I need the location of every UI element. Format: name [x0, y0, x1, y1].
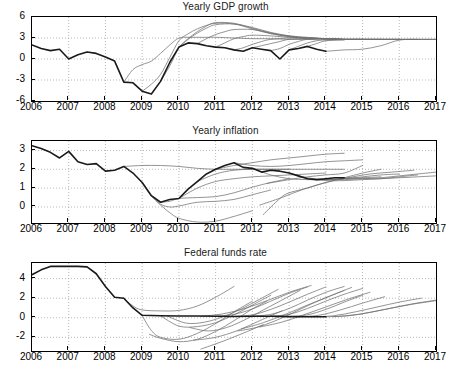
- series-forecast: [234, 160, 363, 167]
- x-axis-label: 2017: [418, 352, 451, 362]
- series-forecast: [311, 298, 421, 317]
- y-tickmark: [31, 16, 35, 17]
- x-tickmark: [288, 96, 289, 100]
- x-axis-label: 2014: [308, 102, 342, 112]
- y-tickmark: [31, 58, 35, 59]
- y-axis-label: 3: [0, 144, 25, 154]
- x-tickmark: [361, 346, 362, 350]
- x-tickmark: [67, 218, 68, 222]
- series-forecast: [216, 153, 345, 169]
- x-axis-label: 2010: [161, 352, 195, 362]
- y-axis-label: -3: [0, 74, 25, 84]
- x-axis-label: 2007: [51, 224, 85, 234]
- x-axis-label: 2011: [198, 102, 232, 112]
- x-axis-label: 2008: [87, 352, 121, 362]
- x-axis-label: 2007: [51, 102, 85, 112]
- y-axis-label: 3: [0, 32, 25, 42]
- y-axis-label: 0: [0, 312, 25, 322]
- x-tickmark: [214, 96, 215, 100]
- series-forecast: [296, 297, 384, 317]
- x-axis-label: 2014: [308, 352, 342, 362]
- x-tickmark: [251, 218, 252, 222]
- x-tickmark: [67, 96, 68, 100]
- series-history: [32, 146, 344, 203]
- x-axis-label: 2006: [14, 102, 48, 112]
- series-history: [32, 266, 326, 316]
- x-tickmark: [141, 218, 142, 222]
- chart-canvas-2: [32, 263, 436, 351]
- x-tickmark: [288, 346, 289, 350]
- y-tickmark: [31, 149, 35, 150]
- x-axis-label: 2011: [198, 224, 232, 234]
- y-axis-label: 4: [0, 273, 25, 283]
- series-forecast: [241, 287, 351, 329]
- y-axis-label: 6: [0, 11, 25, 21]
- series-forecast: [124, 37, 344, 82]
- x-axis-label: 2013: [271, 102, 305, 112]
- plot-area-inflation: [31, 140, 437, 224]
- y-axis-label: -2: [0, 331, 25, 341]
- y-tickmark: [31, 37, 35, 38]
- series-forecast: [307, 39, 436, 46]
- panel-gdp-growth: Yearly GDP growth -6-3036200620072008200…: [0, 0, 451, 120]
- x-tickmark: [214, 346, 215, 350]
- x-axis-label: 2016: [381, 102, 415, 112]
- x-axis-label: 2010: [161, 224, 195, 234]
- x-axis-label: 2012: [234, 102, 268, 112]
- y-axis-label: 2: [0, 292, 25, 302]
- x-axis-label: 2013: [271, 224, 305, 234]
- plot-area-gdp: [31, 16, 437, 102]
- x-tickmark: [324, 96, 325, 100]
- x-axis-label: 2008: [87, 224, 121, 234]
- x-axis-label: 2013: [271, 352, 305, 362]
- y-tickmark: [31, 187, 35, 188]
- x-tickmark: [141, 346, 142, 350]
- x-tickmark: [251, 346, 252, 350]
- x-tickmark: [31, 96, 32, 100]
- x-axis-label: 2009: [124, 224, 158, 234]
- y-tickmark: [31, 168, 35, 169]
- y-axis-label: 0: [0, 201, 25, 211]
- x-tickmark: [31, 218, 32, 222]
- x-axis-label: 2007: [51, 352, 85, 362]
- x-tickmark: [324, 218, 325, 222]
- x-tickmark: [177, 346, 178, 350]
- series-forecast: [333, 301, 436, 317]
- x-tickmark: [31, 346, 32, 350]
- x-tickmark: [177, 96, 178, 100]
- series-forecast: [263, 169, 381, 214]
- y-tickmark: [31, 336, 35, 337]
- series-forecast: [142, 301, 252, 339]
- x-tickmark: [398, 346, 399, 350]
- x-axis-label: 2016: [381, 352, 415, 362]
- y-axis-label: 1: [0, 182, 25, 192]
- panel-title-ffr: Federal funds rate: [0, 247, 451, 259]
- x-tickmark: [214, 218, 215, 222]
- series-forecast: [168, 289, 278, 323]
- x-axis-label: 2008: [87, 102, 121, 112]
- x-tickmark: [361, 96, 362, 100]
- x-tickmark: [398, 218, 399, 222]
- figure-root: Yearly GDP growth -6-3036200620072008200…: [0, 0, 451, 371]
- x-tickmark: [177, 218, 178, 222]
- x-axis-label: 2012: [234, 352, 268, 362]
- x-axis-label: 2006: [14, 224, 48, 234]
- x-tickmark: [398, 96, 399, 100]
- plot-area-ffr: [31, 262, 437, 352]
- x-axis-label: 2014: [308, 224, 342, 234]
- x-tickmark: [361, 218, 362, 222]
- chart-canvas-1: [32, 141, 436, 223]
- series-forecast: [201, 325, 263, 349]
- panel-inflation: Yearly inflation 01232006200720082009201…: [0, 120, 451, 243]
- x-axis-label: 2015: [345, 224, 379, 234]
- x-axis-label: 2006: [14, 352, 48, 362]
- x-axis-label: 2011: [198, 352, 232, 362]
- x-tickmark: [104, 218, 105, 222]
- x-tickmark: [324, 346, 325, 350]
- chart-canvas-0: [32, 17, 436, 101]
- x-tickmark: [141, 96, 142, 100]
- panel-title-inflation: Yearly inflation: [0, 125, 451, 137]
- series-forecast: [216, 287, 308, 316]
- x-axis-label: 2017: [418, 102, 451, 112]
- x-tickmark: [251, 96, 252, 100]
